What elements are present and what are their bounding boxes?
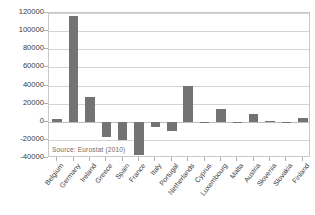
y-tick-label: -40000 <box>0 153 44 161</box>
plot-area: Source: Eurostat (2010) <box>48 12 310 157</box>
x-tick-mark <box>285 157 286 161</box>
x-tick-mark <box>204 157 205 161</box>
x-tick-label-text: Italy <box>150 162 163 176</box>
x-tick-mark <box>89 157 90 161</box>
bar <box>134 122 143 156</box>
bar <box>183 86 192 122</box>
x-tick-label: Finland <box>291 162 311 184</box>
bar <box>151 122 160 127</box>
y-tick-label: 0 <box>0 117 44 125</box>
y-tick-label: 80000 <box>0 44 44 52</box>
bar-series <box>49 13 309 156</box>
x-tick-mark <box>302 157 303 161</box>
x-tick-mark <box>122 157 123 161</box>
y-tick-label: 60000 <box>0 63 44 71</box>
bar <box>85 97 94 121</box>
bar <box>233 122 242 123</box>
bar-chart: 120000100000800006000040000200000-20000-… <box>0 0 315 215</box>
y-tick-label: 120000 <box>0 8 44 16</box>
bar <box>102 122 111 137</box>
x-tick-mark <box>154 157 155 161</box>
x-tick-label: Italy <box>150 162 163 176</box>
y-axis: 120000100000800006000040000200000-20000-… <box>0 0 44 215</box>
x-tick-mark <box>253 157 254 161</box>
y-tick-label: 40000 <box>0 81 44 89</box>
x-tick-mark <box>269 157 270 161</box>
bar <box>282 122 291 123</box>
source-annotation: Source: Eurostat (2010) <box>52 146 125 153</box>
bar <box>69 16 78 122</box>
bar <box>216 109 225 122</box>
bar <box>298 118 307 122</box>
x-tick-mark <box>105 157 106 161</box>
x-axis: BelgiumGermanyIrelandGreeceSpainFranceIt… <box>48 162 310 215</box>
y-tick-label: -20000 <box>0 135 44 143</box>
bar <box>167 122 176 131</box>
x-tick-mark <box>138 157 139 161</box>
x-tick-mark <box>220 157 221 161</box>
bar <box>265 121 274 122</box>
x-tick-mark <box>56 157 57 161</box>
y-tick-label: 100000 <box>0 26 44 34</box>
bar <box>52 119 61 122</box>
bar <box>118 122 127 140</box>
x-tick-mark <box>187 157 188 161</box>
x-tick-label-text: Finland <box>291 162 311 184</box>
x-tick-mark <box>73 157 74 161</box>
bar <box>200 122 209 123</box>
x-tick-mark <box>171 157 172 161</box>
bar <box>249 114 258 122</box>
x-tick-mark <box>236 157 237 161</box>
y-tick-label: 20000 <box>0 99 44 107</box>
